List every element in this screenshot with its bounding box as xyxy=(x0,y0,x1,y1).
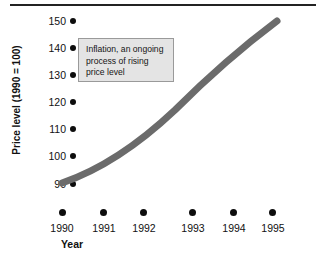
chart-figure: Price level (1990 = 100) 150 140 130 120… xyxy=(0,0,316,258)
x-tick-dot-1993 xyxy=(189,209,196,216)
x-tick-label-1994: 1994 xyxy=(214,221,254,235)
x-tick-label-1995: 1995 xyxy=(253,221,293,235)
x-tick-dot-1990 xyxy=(59,209,66,216)
plot-area: Price level (1990 = 100) 150 140 130 120… xyxy=(0,0,316,258)
x-tick-label-1992: 1992 xyxy=(124,221,164,235)
x-axis-title: Year xyxy=(42,238,102,250)
annotation-text: Inflation, an ongoing process of rising … xyxy=(86,44,167,79)
x-tick-label-1993: 1993 xyxy=(173,221,213,235)
x-tick-dot-1994 xyxy=(230,209,237,216)
annotation-callout: Inflation, an ongoing process of rising … xyxy=(78,38,174,82)
x-tick-label-1991: 1991 xyxy=(84,221,124,235)
x-tick-dot-1992 xyxy=(140,209,147,216)
x-tick-label-1990: 1990 xyxy=(42,221,82,235)
x-tick-dot-1991 xyxy=(100,209,107,216)
x-tick-dot-1995 xyxy=(269,209,276,216)
